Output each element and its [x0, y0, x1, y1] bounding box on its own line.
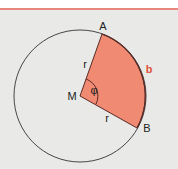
label-radius-lower: r	[105, 112, 109, 124]
label-point-a: A	[99, 20, 107, 32]
sector-diagram: A B M r r φ b	[0, 0, 178, 169]
label-arc-b: b	[146, 63, 153, 75]
label-angle-phi: φ	[90, 84, 97, 96]
label-center-m: M	[67, 90, 76, 102]
label-point-b: B	[143, 122, 150, 134]
label-radius-upper: r	[83, 58, 87, 70]
